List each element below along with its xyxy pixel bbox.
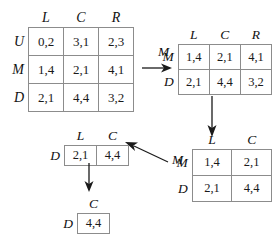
arrow-down-step4 (80, 163, 98, 193)
matrix-step1-row-0: M 1,4 2,1 4,1 (158, 45, 272, 70)
matrix-step2-col-header-0: L (192, 132, 232, 150)
matrix-step1-row-header-1: D (158, 70, 178, 95)
matrix-step2-column-header-row: L C (172, 132, 272, 150)
matrix-full-row-header-1: M (6, 56, 29, 84)
matrix-step1-cell-1-2: 3,2 (240, 70, 271, 95)
matrix-step3-grid: L C D 2,1 4,4 (44, 128, 129, 166)
matrix-full-cell-1-1: 2,1 (64, 56, 99, 84)
matrix-step1-corner-spacer (158, 27, 178, 45)
matrix-step4-column-header-row: C (57, 196, 110, 214)
matrix-step2-corner-spacer (172, 132, 192, 150)
matrix-full-row-1: M 1,4 2,1 4,1 (6, 56, 134, 84)
matrix-step4: C D 4,4 (57, 196, 110, 234)
matrix-step2-grid: L C M 1,4 2,1 D 2,1 4,4 (172, 132, 272, 202)
matrix-step2-cell-1-1: 4,4 (232, 176, 272, 202)
matrix-step3-col-header-0: L (65, 128, 97, 146)
matrix-full-cell-2-0: 2,1 (29, 84, 64, 112)
matrix-full-col-header-2: R (99, 10, 134, 28)
matrix-step2-row-0: M 1,4 2,1 (172, 150, 272, 176)
matrix-step3: L C D 2,1 4,4 (44, 128, 129, 166)
matrix-step1-cell-0-2: 4,1 (240, 45, 271, 70)
matrix-full-grid: L C R U 0,2 3,1 2,3 M 1,4 2,1 4,1 D 2,1 … (6, 10, 134, 112)
matrix-step1-column-header-row: L C R (158, 27, 272, 45)
matrix-full-cell-0-0: 0,2 (29, 28, 64, 56)
matrix-step4-row-header-0: D (57, 214, 78, 234)
arrow-upleft-step3-label: M (172, 152, 183, 168)
matrix-step2: L C M 1,4 2,1 D 2,1 4,4 (172, 132, 272, 202)
matrix-full-cell-0-1: 3,1 (64, 28, 99, 56)
matrix-full-cell-1-0: 1,4 (29, 56, 64, 84)
matrix-full-cell-1-2: 4,1 (99, 56, 134, 84)
matrix-step4-row-0: D 4,4 (57, 214, 110, 234)
matrix-step2-cell-0-1: 2,1 (232, 150, 272, 176)
matrix-step3-cell-0-1: 4,4 (97, 146, 129, 166)
matrix-step4-col-header-0: C (78, 196, 110, 214)
matrix-step4-cell-0-0: 4,4 (78, 214, 110, 234)
diagram-canvas: L C R U 0,2 3,1 2,3 M 1,4 2,1 4,1 D 2,1 … (0, 0, 272, 243)
matrix-full-col-header-1: C (64, 10, 99, 28)
matrix-full: L C R U 0,2 3,1 2,3 M 1,4 2,1 4,1 D 2,1 … (6, 10, 134, 112)
matrix-full-column-header-row: L C R (6, 10, 134, 28)
matrix-step1-cell-1-1: 4,4 (209, 70, 240, 95)
matrix-full-col-header-0: L (29, 10, 64, 28)
matrix-step4-corner-spacer (57, 196, 78, 214)
matrix-step1-col-header-0: L (178, 27, 209, 45)
matrix-step1-col-header-1: C (209, 27, 240, 45)
matrix-step3-col-header-1: C (97, 128, 129, 146)
matrix-full-row-header-2: D (6, 84, 29, 112)
matrix-step1-col-header-2: R (240, 27, 271, 45)
matrix-full-cell-2-1: 4,4 (64, 84, 99, 112)
matrix-step3-row-header-0: D (44, 146, 65, 166)
matrix-step1-cell-0-1: 2,1 (209, 45, 240, 70)
matrix-step2-row-1: D 2,1 4,4 (172, 176, 272, 202)
matrix-step1-grid: L C R M 1,4 2,1 4,1 D 2,1 4,4 3,2 (158, 27, 272, 95)
matrix-step2-cell-1-0: 2,1 (192, 176, 232, 202)
matrix-full-row-2: D 2,1 4,4 3,2 (6, 84, 134, 112)
matrix-step1: L C R M 1,4 2,1 4,1 D 2,1 4,4 3,2 (158, 27, 272, 95)
matrix-step4-grid: C D 4,4 (57, 196, 110, 234)
matrix-full-cell-0-2: 2,3 (99, 28, 134, 56)
matrix-step2-row-header-1: D (172, 176, 192, 202)
matrix-step2-cell-0-0: 1,4 (192, 150, 232, 176)
matrix-full-row-0: U 0,2 3,1 2,3 (6, 28, 134, 56)
matrix-step1-row-1: D 2,1 4,4 3,2 (158, 70, 272, 95)
matrix-full-corner-spacer (6, 10, 29, 28)
matrix-step1-row-header-0: M (158, 45, 178, 70)
matrix-step2-col-header-1: C (232, 132, 272, 150)
matrix-step3-column-header-row: L C (44, 128, 129, 146)
matrix-full-row-header-0: U (6, 28, 29, 56)
matrix-full-cell-2-2: 3,2 (99, 84, 134, 112)
matrix-step1-cell-1-0: 2,1 (178, 70, 209, 95)
matrix-step3-corner-spacer (44, 128, 65, 146)
matrix-step1-cell-0-0: 1,4 (178, 45, 209, 70)
